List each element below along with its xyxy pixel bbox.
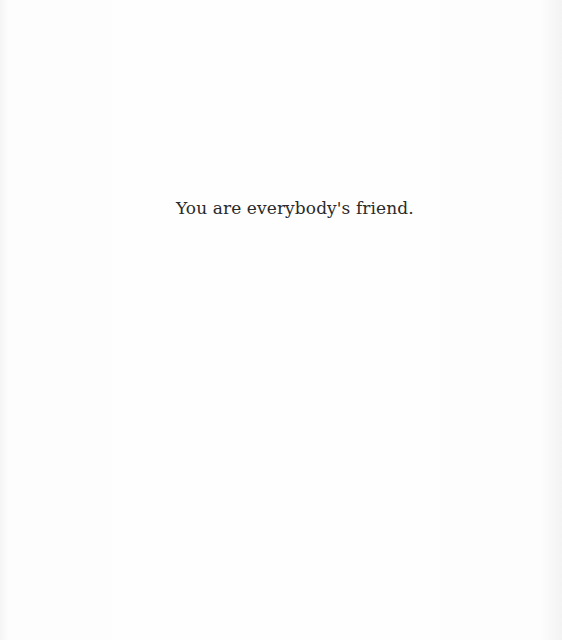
page-text: You are everybody's friend. xyxy=(176,196,414,220)
book-page: You are everybody's friend. xyxy=(0,0,562,640)
